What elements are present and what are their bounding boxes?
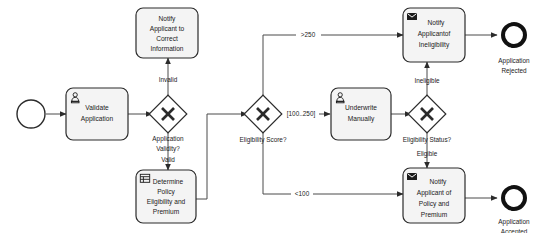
task-label-line: Determine xyxy=(153,178,184,185)
task-label-line: Ineligibility xyxy=(419,41,450,49)
task-label-line: Notify xyxy=(159,15,177,23)
end-event-label-accepted: Accepted xyxy=(501,228,528,233)
task-label-line: Correct xyxy=(156,35,178,42)
flow-label-invalid: Invalid xyxy=(159,76,178,83)
task-label-line: Applicant to xyxy=(150,25,185,33)
flow-label-score-high: >250 xyxy=(301,31,316,38)
end-event-label-accepted: Application xyxy=(498,218,530,226)
start-event[interactable] xyxy=(17,100,45,128)
task-label-line: Application xyxy=(81,115,114,123)
task-label-line: Validate xyxy=(85,104,109,111)
envelope-icon xyxy=(407,13,417,20)
gateway-eligibility-score[interactable] xyxy=(244,95,282,133)
task-determine-policy[interactable]: Determine Policy Eligibility and Premium xyxy=(136,170,196,223)
task-notify-policy-premium[interactable]: Notify Applicant of Policy and Premium xyxy=(403,168,465,223)
task-label-line: Policy xyxy=(157,188,175,196)
task-label-line: Premium xyxy=(153,208,180,215)
task-label-line: Eligibility and xyxy=(147,198,186,206)
task-label-line: Information xyxy=(151,45,184,52)
task-label-line: Applicant of xyxy=(417,189,452,197)
flow-determine-to-score xyxy=(196,114,247,199)
end-event-application-accepted[interactable] xyxy=(503,187,525,209)
task-notify-correct-information[interactable]: Notify Applicant to Correct Information xyxy=(136,8,198,58)
task-label-line: Applicantof xyxy=(418,30,451,38)
envelope-icon xyxy=(407,173,417,180)
task-label-line: Notify xyxy=(428,19,446,27)
task-label-line: Notify xyxy=(430,178,448,186)
gateway-application-validity[interactable] xyxy=(149,95,187,133)
gateway-label-eligibility-score: Eligibility Score? xyxy=(240,136,287,144)
task-underwrite-manually[interactable]: Underwrite Manually xyxy=(331,88,391,140)
gateway-label-application-validity: Validity? xyxy=(156,145,180,153)
flow-label-valid: Valid xyxy=(161,156,175,163)
task-label-line: Policy and xyxy=(419,200,450,208)
task-label-line: Underwrite xyxy=(345,104,377,111)
gateway-eligibility-status[interactable] xyxy=(408,95,446,133)
flow-label-score-low: <100 xyxy=(295,190,310,197)
end-event-label-rejected: Application xyxy=(498,57,530,65)
task-label-line: Manually xyxy=(348,115,375,123)
bpmn-diagram-canvas: Validate Application Notify Applicant to… xyxy=(0,0,556,233)
end-event-application-rejected[interactable] xyxy=(503,24,525,46)
task-validate-application[interactable]: Validate Application xyxy=(66,88,128,140)
task-label-line: Premium xyxy=(421,211,448,218)
bpmn-svg-root: Validate Application Notify Applicant to… xyxy=(0,0,556,233)
flow-label-eligible: Eligible xyxy=(417,150,438,158)
end-event-label-rejected: Rejected xyxy=(501,67,527,75)
gateway-label-application-validity: Application xyxy=(152,135,184,143)
gateway-label-eligibility-status: Eligibility Status? xyxy=(403,136,452,144)
flow-label-ineligible: Ineligible xyxy=(414,77,440,85)
flow-label-score-mid: [100..250] xyxy=(287,110,316,118)
task-notify-ineligibility[interactable]: Notify Applicantof Ineligibility xyxy=(403,8,465,62)
